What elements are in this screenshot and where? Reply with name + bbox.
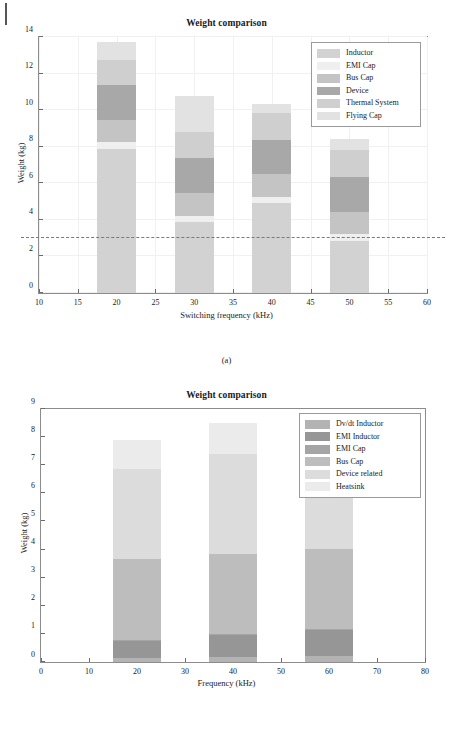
chart-a-bar-segment [175,193,214,216]
legend-swatch-icon [305,457,330,466]
legend-swatch-icon [317,87,340,96]
chart-b-ytick [41,633,45,634]
legend-item[interactable]: Thermal System [317,97,415,110]
chart-b-xtick [89,658,90,662]
chart-a-yaxis-title: Weight (kg) [16,133,26,193]
chart-b-plot-area: 012345678901020304050607080Dv/dt Inducto… [40,408,426,663]
chart-b-bar-segment [209,634,257,656]
chart-a-bar-segment [330,150,369,177]
chart-a-xtick-label: 30 [190,298,198,307]
chart-b-ytick [41,605,45,606]
chart-a-bar-segment [97,149,136,293]
legend-item[interactable]: EMI Inductor [305,431,415,444]
chart-a-bar-segment [252,174,291,197]
legend-item[interactable]: Inductor [317,47,415,60]
chart-a-ytick-label: 2 [29,243,33,252]
chart-a-ytick-label: 10 [25,97,33,106]
chart-a-ytick-label: 8 [29,134,33,143]
chart-a-bar-segment [330,139,369,151]
chart-a-bar-segment [252,197,291,203]
chart-a-bar [252,37,291,293]
chart-b-bar-segment [113,640,161,641]
chart-b-bar-segment [209,634,257,635]
chart-b-bar-segment [113,559,161,639]
chart-a-bar-segment [97,85,136,120]
legend-item[interactable]: EMI Cap [305,443,415,456]
figure-a-caption: (a) [0,355,453,365]
legend-item[interactable]: Device [317,85,415,98]
chart-b-ytick [41,408,45,409]
chart-a-xtick [311,289,312,293]
legend-swatch-icon [317,49,340,58]
chart-a-xtick-label: 35 [229,298,237,307]
chart-a-ytick-label: 6 [29,170,33,179]
legend-item[interactable]: Flying Cap [317,110,415,123]
chart-b-xtick [281,658,282,662]
chart-a-bar-segment [252,140,291,173]
chart-a-xtick-label: 55 [384,298,392,307]
chart-a-xaxis-title: Switching frequency (kHz) [0,310,453,320]
chart-a-bar-segment [252,113,291,140]
legend-item-label: EMI Cap [346,62,376,70]
legend-item[interactable]: Dv/dt Inductor [305,418,415,431]
chart-a-xtick-label: 10 [35,298,43,307]
chart-a-bar-segment [97,60,136,85]
legend-swatch-icon [305,482,330,491]
chart-a-ytick-label: 4 [29,207,33,216]
legend-swatch-icon [305,432,330,441]
chart-a-xtick-label: 40 [268,298,276,307]
chart-a-xtick-label: 20 [113,298,121,307]
chart-b-bar [209,409,257,662]
chart-a-title: Weight comparison [0,18,453,28]
chart-a-xtick-label: 45 [307,298,315,307]
chart-b-xtick [425,658,426,662]
chart-b-xtick-label: 20 [133,667,141,676]
chart-a-bar-segment [175,96,214,132]
legend-swatch-icon [305,470,330,479]
chart-b-xtick-label: 60 [325,667,333,676]
legend-item[interactable]: EMI Cap [317,60,415,73]
chart-b-xtick [41,658,42,662]
chart-b-bar-segment [305,549,353,629]
legend-item-label: Inductor [346,49,373,57]
chart-b-bar-segment [113,469,161,559]
legend-swatch-icon [317,62,340,71]
chart-a-bar-segment [175,132,214,158]
legend-item-label: EMI Inductor [336,433,380,441]
chart-a-bar-segment [330,177,369,211]
legend-item[interactable]: Device related [305,468,415,481]
chart-a-bar [175,37,214,293]
chart-b-bar-segment [209,454,257,554]
chart-b-bar-segment [209,657,257,662]
chart-b-ytick [41,577,45,578]
chart-b-ytick-label: 7 [31,452,35,461]
chart-b-xtick [377,658,378,662]
chart-b-ytick-label: 8 [31,424,35,433]
chart-b-ytick [41,549,45,550]
figure-a: Weight comparison 0246810121410152025303… [0,8,453,370]
chart-a-bar-segment [97,120,136,142]
chart-a-xtick [39,289,40,293]
chart-b-bar-segment [209,423,257,454]
chart-b-ytick-label: 0 [31,649,35,658]
chart-a-bar-segment [330,212,369,234]
chart-b-ytick [41,464,45,465]
chart-a-xtick-label: 60 [423,298,431,307]
legend-item[interactable]: Bus Cap [317,72,415,85]
chart-a-ytick-label: 0 [29,280,33,289]
legend-item[interactable]: Heatsink [305,481,415,494]
chart-a-bar-segment [330,241,369,293]
legend-swatch-icon [305,445,330,454]
chart-b-ytick [41,436,45,437]
chart-b-bar [113,409,161,662]
chart-b-bar-segment [305,630,353,656]
legend-item-label: Device related [336,470,382,478]
chart-b-legend[interactable]: Dv/dt InductorEMI InductorEMI CapBus Cap… [299,413,421,498]
chart-a-legend[interactable]: InductorEMI CapBus CapDeviceThermal Syst… [311,42,421,127]
chart-a-ytick [39,73,43,74]
chart-b-ytick-label: 3 [31,565,35,574]
chart-a-bar-segment [175,222,214,293]
legend-item[interactable]: Bus Cap [305,456,415,469]
chart-b-ytick-label: 5 [31,508,35,517]
chart-a-bar-segment [175,158,214,194]
